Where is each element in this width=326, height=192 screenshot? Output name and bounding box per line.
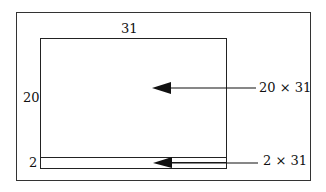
strip-height-label: 2 [29,156,37,169]
main-area-annotation: 20 × 31 [259,81,311,94]
height-label: 20 [23,91,40,104]
width-label: 31 [121,22,138,35]
strip-area-annotation: 2 × 31 [263,154,307,167]
strip-area-arrow [153,157,258,168]
main-area-arrow [152,82,256,94]
